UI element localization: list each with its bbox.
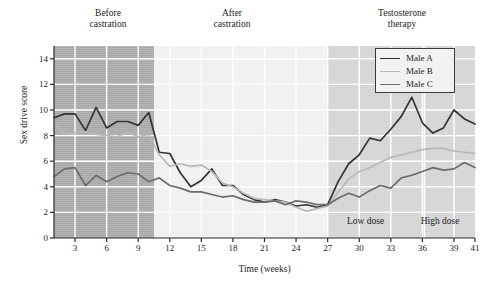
y-tick-label: 2 (18, 207, 48, 217)
legend-label-male-b: Male B (406, 65, 433, 78)
x-tick-label: 36 (410, 243, 434, 253)
y-tick-label: 0 (18, 233, 48, 243)
legend-swatch-male-b (380, 71, 400, 72)
legend-label-male-a: Male A (406, 52, 433, 65)
x-tick-label: 3 (63, 243, 87, 253)
y-tick-label: 12 (18, 79, 48, 89)
x-tick-label: 6 (95, 243, 119, 253)
legend-item-male-b: Male B (380, 65, 450, 78)
y-tick-label: 4 (18, 182, 48, 192)
x-tick-label: 18 (221, 243, 245, 253)
x-tick-label: 9 (126, 243, 150, 253)
phase-title-before: Before castration (62, 8, 154, 30)
y-tick-label: 14 (18, 54, 48, 64)
x-tick-label: 15 (189, 243, 213, 253)
x-tick-label: 30 (347, 243, 371, 253)
legend-label-male-c: Male C (406, 78, 433, 91)
y-tick-label: 10 (18, 105, 48, 115)
x-tick-label: 12 (158, 243, 182, 253)
y-tick-label: 6 (18, 156, 48, 166)
x-tick-label: 41 (463, 243, 487, 253)
legend-swatch-male-a (380, 58, 400, 59)
legend-item-male-c: Male C (380, 78, 450, 91)
annotation-high-dose: High dose (421, 216, 460, 226)
legend-item-male-a: Male A (380, 52, 450, 65)
x-axis-label: Time (weeks) (54, 264, 475, 274)
x-tick-label: 24 (284, 243, 308, 253)
x-tick-label: 27 (316, 243, 340, 253)
x-tick-label: 33 (379, 243, 403, 253)
sex-drive-line-chart: Before castration After castration Testo… (0, 0, 492, 286)
annotation-low-dose: Low dose (347, 216, 384, 226)
y-tick-label: 8 (18, 131, 48, 141)
phase-title-therapy: Testosterone therapy (350, 8, 454, 30)
legend-swatch-male-c (380, 84, 400, 85)
x-tick-label: 21 (253, 243, 277, 253)
chart-legend: Male A Male B Male C (375, 48, 455, 93)
phase-title-after: After castration (186, 8, 278, 30)
